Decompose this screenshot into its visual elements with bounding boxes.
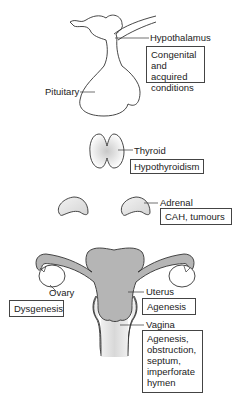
condition-line: Hypothyroidism	[134, 161, 200, 172]
thyroid-label: Thyroid	[134, 145, 166, 156]
uterus-conditions-box: Agenesis	[142, 298, 196, 315]
hypothalamus-label: Hypothalamus	[150, 32, 211, 43]
vagina-conditions-box: Agenesis, obstruction, septum, imperfora…	[142, 330, 203, 393]
ovary-label: Ovary	[49, 287, 74, 298]
endocrine-reproductive-diagram	[0, 0, 242, 399]
ovary-conditions-box: Dysgenesis	[9, 300, 64, 317]
thyroid-conditions-box: Hypothyroidism	[130, 159, 204, 174]
thyroid-shape	[90, 134, 124, 168]
adrenal-left-shape	[58, 197, 88, 215]
condition-line: CAH, tumours	[165, 211, 227, 222]
condition-line: obstruction,	[147, 344, 198, 355]
condition-line: Agenesis,	[147, 333, 198, 344]
pituitary-label: Pituitary	[45, 86, 79, 97]
condition-line: and acquired	[151, 60, 200, 82]
vagina-label: Vagina	[146, 319, 175, 330]
ovary-right-shape	[169, 265, 195, 287]
uterus-label: Uterus	[146, 286, 174, 297]
hypothalamus-pituitary-shape	[70, 15, 140, 116]
condition-line: conditions	[151, 82, 200, 93]
condition-line: septum,	[147, 355, 198, 366]
ovary-left-shape	[39, 265, 65, 287]
adrenal-label: Adrenal	[160, 197, 193, 208]
condition-line: Congenital	[151, 49, 200, 60]
condition-line: Dysgenesis	[14, 303, 59, 314]
condition-line: hymen	[147, 377, 198, 388]
adrenal-conditions-box: CAH, tumours	[160, 208, 232, 225]
hypothalamus-conditions-box: Congenital and acquired conditions	[146, 46, 205, 83]
condition-line: imperforate	[147, 366, 198, 377]
condition-line: Agenesis	[147, 301, 191, 312]
adrenal-right-shape	[121, 197, 150, 215]
